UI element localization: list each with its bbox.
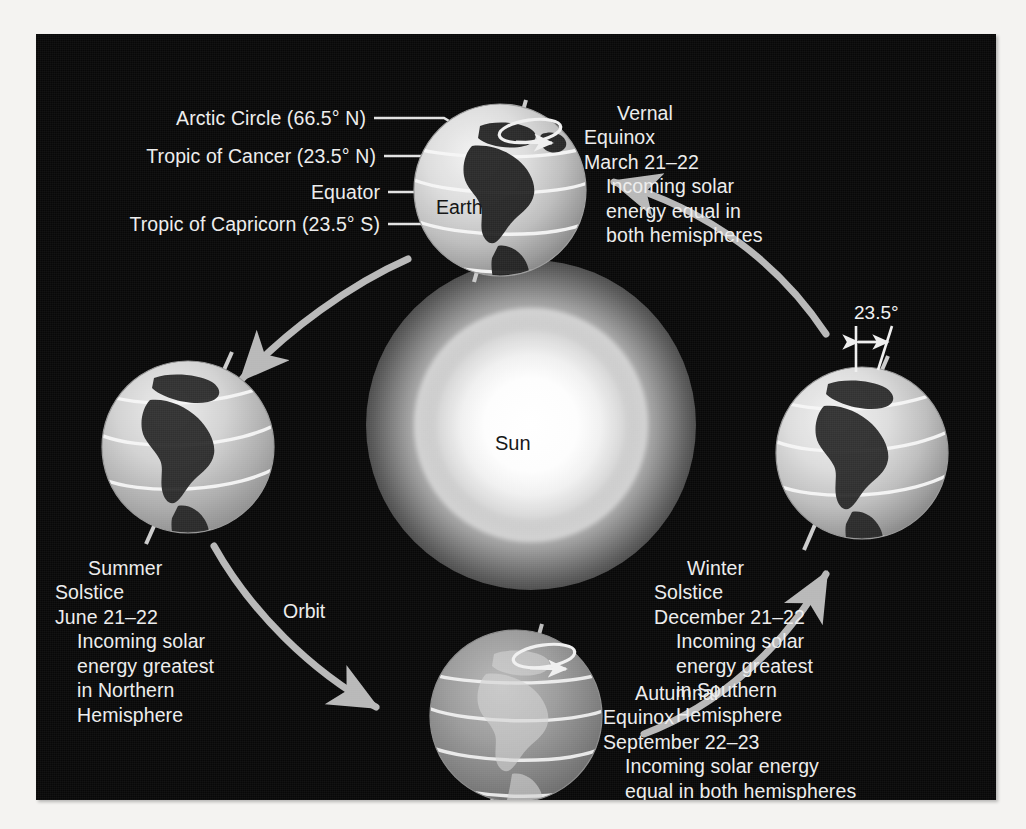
vernal-equinox-name-line1: Vernal — [617, 102, 673, 124]
vernal-equinox-detail-line1: Incoming solar — [584, 174, 763, 199]
tilt-angle-label: 23.5° — [854, 302, 899, 324]
winter-solstice-block: Winter Solstice December 21–22 Incoming … — [654, 531, 813, 776]
vernal-equinox-block: Vernal Equinox March 21–22 Incoming sola… — [584, 76, 763, 297]
summer-solstice-detail-line3: in Northern — [55, 678, 214, 703]
winter-solstice-detail-line4: Hemisphere — [654, 703, 813, 728]
callout-tropic-of-cancer: Tropic of Cancer (23.5° N) — [56, 144, 376, 169]
callout-arctic-circle: Arctic Circle (66.5° N) — [56, 106, 366, 131]
orbit-arrow-top-left — [242, 259, 408, 379]
winter-solstice-detail-line3: in Southern — [654, 678, 813, 703]
summer-solstice-detail-line2: energy greatest — [55, 654, 214, 679]
tilt-annotation-lines — [856, 326, 892, 372]
winter-solstice-name-line1: Winter — [687, 557, 744, 579]
winter-solstice-date: December 21–22 — [654, 606, 805, 628]
orbit-arrow-bottom-left — [214, 546, 376, 707]
vernal-equinox-name-line2: Equinox — [584, 126, 655, 148]
vernal-equinox-detail-line3: both hemispheres — [584, 223, 763, 248]
winter-solstice-name-line2: Solstice — [654, 581, 723, 603]
globe-bottom-autumnal-equinox — [424, 624, 612, 800]
winter-solstice-detail-line2: energy greatest — [654, 654, 813, 679]
summer-solstice-date: June 21–22 — [55, 606, 158, 628]
callout-tropic-of-capricorn: Tropic of Capricorn (23.5° S) — [42, 212, 380, 237]
summer-solstice-block: Summer Solstice June 21–22 Incoming sola… — [55, 531, 214, 776]
autumnal-equinox-detail-line2: equal in both hemispheres — [603, 779, 856, 801]
vernal-equinox-date: March 21–22 — [584, 151, 699, 173]
winter-solstice-detail-line1: Incoming solar — [654, 629, 813, 654]
summer-solstice-name-line2: Solstice — [55, 581, 124, 603]
seasons-diagram-figure: Sun — [36, 34, 996, 800]
page-canvas: Sun — [0, 0, 1026, 829]
summer-solstice-name-line1: Summer — [88, 557, 162, 579]
sun-label: Sun — [495, 432, 531, 455]
summer-solstice-detail-line4: Hemisphere — [55, 703, 214, 728]
vernal-equinox-detail-line2: energy equal in — [584, 199, 763, 224]
earth-label: Earth — [436, 196, 483, 219]
orbit-label: Orbit — [283, 600, 325, 623]
callout-equator: Equator — [56, 180, 380, 205]
summer-solstice-detail-line1: Incoming solar — [55, 629, 214, 654]
